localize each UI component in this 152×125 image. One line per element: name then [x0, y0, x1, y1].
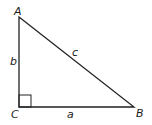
- vertex-label-c: C: [11, 108, 19, 121]
- right-triangle-diagram: A B C a b c: [0, 0, 152, 125]
- side-label-a: a: [67, 108, 74, 121]
- triangle-outline: [19, 17, 134, 107]
- right-angle-marker: [19, 95, 31, 107]
- vertex-label-b: B: [136, 107, 144, 120]
- vertex-label-a: A: [13, 5, 22, 18]
- side-label-b: b: [10, 55, 17, 68]
- side-label-c: c: [72, 46, 78, 59]
